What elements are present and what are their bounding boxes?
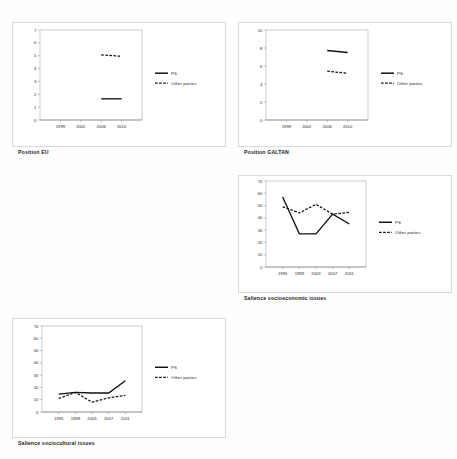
- x-tick-label: 1999: [71, 416, 81, 421]
- figure-sheet: 012345671999200220062010PSOther parties …: [0, 0, 457, 459]
- series-line-ps: [327, 51, 347, 53]
- x-tick-label: 2010: [117, 124, 127, 129]
- figure-position-galtan: 02468101999200220062010PSOther parties P…: [238, 22, 452, 147]
- chart-position-galtan: 02468101999200220062010PSOther parties: [238, 22, 452, 147]
- legend-label-ps: PS: [171, 71, 177, 76]
- y-tick-label: 20: [258, 240, 263, 245]
- series-line-other-parties: [59, 392, 126, 402]
- x-tick-label: 1995: [278, 271, 288, 276]
- y-tick-label: 2: [34, 92, 37, 97]
- x-tick-label: 2006: [323, 124, 333, 129]
- figure-salience-socioeconomic: 01020304050607019951999200320072011PSOth…: [238, 175, 452, 293]
- y-tick-label: 4: [34, 66, 37, 71]
- series-line-other-parties: [327, 71, 347, 73]
- x-tick-label: 1999: [282, 124, 292, 129]
- x-tick-label: 2006: [97, 124, 107, 129]
- y-tick-label: 70: [34, 324, 39, 329]
- x-tick-label: 2003: [87, 416, 97, 421]
- figure-caption: Salience sociocultural issues: [18, 440, 95, 446]
- y-tick-label: 3: [34, 79, 37, 84]
- y-tick-label: 10: [258, 252, 263, 257]
- y-tick-label: 0: [34, 118, 37, 123]
- y-tick-label: 10: [258, 28, 263, 33]
- chart-salience-sociocultural: 01020304050607019951999200320072011PSOth…: [12, 318, 226, 438]
- y-tick-label: 60: [34, 336, 39, 341]
- x-tick-label: 1999: [295, 271, 305, 276]
- figure-caption: Salience socioeconomic issues: [244, 295, 326, 301]
- y-tick-label: 2: [260, 100, 263, 105]
- y-tick-label: 6: [34, 40, 37, 45]
- y-tick-label: 8: [260, 46, 263, 51]
- figure-position-eu: 012345671999200220062010PSOther parties …: [12, 22, 226, 147]
- y-tick-label: 4: [260, 82, 263, 87]
- x-tick-label: 2003: [311, 271, 321, 276]
- y-tick-label: 30: [258, 228, 263, 233]
- series-line-other-parties: [101, 55, 121, 57]
- chart-position-eu: 012345671999200220062010PSOther parties: [12, 22, 226, 147]
- legend-label-ps: PS: [171, 365, 177, 370]
- y-tick-label: 10: [34, 397, 39, 402]
- x-tick-label: 1999: [56, 124, 66, 129]
- y-tick-label: 7: [34, 28, 37, 33]
- x-tick-label: 2011: [121, 416, 131, 421]
- y-tick-label: 20: [34, 385, 39, 390]
- x-tick-label: 2011: [345, 271, 355, 276]
- series-line-ps: [59, 381, 126, 395]
- legend-label-other-parties: Other parties: [397, 81, 423, 86]
- y-tick-label: 0: [36, 410, 39, 415]
- y-tick-label: 50: [34, 348, 39, 353]
- series-line-other-parties: [283, 204, 350, 214]
- y-tick-label: 40: [34, 360, 39, 365]
- y-tick-label: 30: [34, 373, 39, 378]
- y-tick-label: 0: [260, 265, 263, 270]
- legend-label-other-parties: Other parties: [171, 375, 197, 380]
- x-tick-label: 2010: [343, 124, 353, 129]
- chart-salience-socioeconomic: 01020304050607019951999200320072011PSOth…: [238, 175, 452, 293]
- y-tick-label: 60: [258, 191, 263, 196]
- legend-label-other-parties: Other parties: [395, 230, 421, 235]
- figure-caption: Position GALTAN: [244, 149, 289, 155]
- x-tick-label: 2007: [328, 271, 338, 276]
- y-tick-label: 0: [260, 118, 263, 123]
- x-tick-label: 2007: [104, 416, 114, 421]
- legend-label-ps: PS: [395, 220, 401, 225]
- x-tick-label: 2002: [76, 124, 86, 129]
- y-tick-label: 50: [258, 203, 263, 208]
- x-tick-label: 1995: [54, 416, 64, 421]
- y-tick-label: 5: [34, 53, 37, 58]
- y-tick-label: 6: [260, 64, 263, 69]
- series-line-ps: [283, 197, 350, 234]
- y-tick-label: 1: [34, 105, 37, 110]
- legend-label-other-parties: Other parties: [171, 81, 197, 86]
- x-tick-label: 2002: [302, 124, 312, 129]
- legend-label-ps: PS: [397, 71, 403, 76]
- figure-salience-sociocultural: 01020304050607019951999200320072011PSOth…: [12, 318, 226, 438]
- y-tick-label: 40: [258, 215, 263, 220]
- figure-caption: Position EU: [18, 149, 49, 155]
- y-tick-label: 70: [258, 179, 263, 184]
